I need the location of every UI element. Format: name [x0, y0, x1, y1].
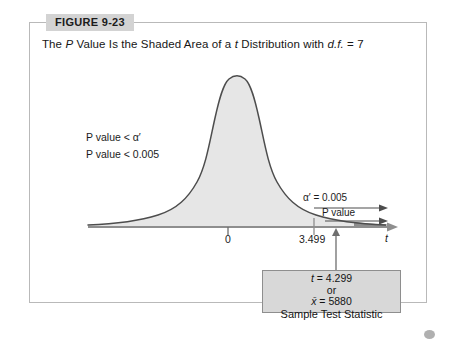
axis-tick-label-critical: 3.499 [299, 233, 325, 245]
annotation-alpha-equals: α′ = 0.005 [303, 192, 347, 203]
annotation-p-value-tail: P value [322, 207, 355, 218]
axis-arrowhead-icon [387, 223, 398, 232]
figure-number-tab: FIGURE 9-23 [46, 14, 134, 31]
stat-box-line-xbar: x̄ = 5880 [263, 296, 400, 307]
stat-box-line-caption: Sample Test Statistic [263, 309, 400, 320]
stat-box-value-t: = 4.299 [314, 272, 352, 284]
stat-box-line-or: or [263, 285, 400, 296]
axis-tick-label-zero: 0 [225, 233, 231, 245]
t-distribution-plot [29, 22, 427, 303]
stat-box-pointer-arrowhead-icon [332, 228, 340, 236]
p-value-leader-arrowhead-icon [379, 218, 388, 225]
stat-box-line-t: t = 4.299 [263, 273, 400, 284]
sample-test-statistic-box: t = 4.299 or x̄ = 5880 Sample Test Stati… [262, 270, 401, 313]
annotation-p-value-lt-alpha: P value < α′ [86, 131, 141, 143]
axis-label-t: t [385, 232, 388, 244]
stat-box-value-xbar: = 5880 [316, 295, 351, 307]
alpha-leader-arrowhead-icon [379, 205, 388, 212]
page-corner-dot [424, 330, 435, 339]
annotation-p-value-lt-number: P value < 0.005 [86, 148, 159, 160]
